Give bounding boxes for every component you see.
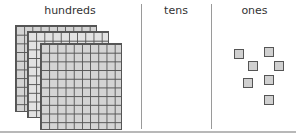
tens-label: tens [143,4,209,17]
column-divider [211,4,212,129]
unit-cube [264,47,274,57]
ones-label: ones [213,4,296,17]
unit-cube [274,61,284,71]
unit-cube [264,75,274,85]
unit-cube [234,49,244,59]
baseline-divider [0,131,296,133]
unit-cube [243,78,253,88]
column-divider [141,4,142,129]
hundreds-label: hundreds [18,4,122,17]
hundred-flat [40,43,122,130]
unit-cube [248,61,258,71]
unit-cube [264,95,274,105]
